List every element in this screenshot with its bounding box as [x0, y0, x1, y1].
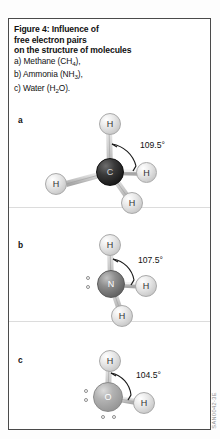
atom-label: H [141, 398, 148, 408]
water-electron-dot-4 [112, 415, 116, 419]
atom-label: H [107, 356, 114, 366]
methane-hydrogen-left: H [45, 173, 67, 195]
atom-label: H [119, 311, 126, 321]
watermark-text: SAN0042-3E [211, 392, 217, 429]
ammonia-nitrogen-atom: N [97, 270, 125, 298]
caption-line-2: free electron pairs [14, 35, 206, 46]
panel-letter-a: a [18, 115, 23, 125]
water-angle-label: 104.5° [136, 370, 161, 380]
ammonia-hydrogen-bottom: H [111, 305, 133, 327]
caption-item-b-suffix: ), [78, 69, 83, 79]
caption-item-a-prefix: a) Methane (CH [14, 56, 72, 66]
caption-item-a-suffix: ), [76, 56, 81, 66]
ammonia-hydrogen-top: H [99, 234, 121, 256]
ammonia-electron-dot-2 [86, 285, 90, 289]
water-electron-dot-2 [84, 398, 88, 402]
atom-label: N [108, 279, 115, 289]
panel-divider-a [9, 207, 210, 208]
atom-label: H [107, 240, 114, 250]
water-hydrogen-right: H [133, 392, 155, 414]
water-oxygen-atom: O [93, 382, 123, 412]
figure-caption: Figure 4: Influence of free electron pai… [14, 24, 206, 96]
caption-item-c: c) Water (H2O). [14, 83, 206, 97]
caption-item-c-prefix: c) Water (H [14, 83, 55, 93]
methane-carbon-atom: C [96, 158, 124, 186]
atom-label: H [143, 168, 150, 178]
water-hydrogen-top: H [99, 350, 121, 372]
ammonia-angle-label: 107.5° [138, 255, 163, 265]
caption-line-1: Figure 4: Influence of [14, 24, 206, 35]
atom-label: H [129, 198, 136, 208]
methane-hydrogen-top: H [99, 113, 121, 135]
methane-angle-label: 109.5° [140, 140, 165, 150]
atom-label: H [53, 179, 60, 189]
water-electron-dot-3 [101, 415, 105, 419]
atom-label: C [107, 167, 114, 177]
panel-letter-c: c [18, 355, 23, 365]
caption-line-3: on the structure of molecules [14, 45, 206, 56]
methane-hydrogen-right: H [136, 162, 157, 183]
panel-letter-b: b [18, 240, 23, 250]
caption-item-b-prefix: b) Ammonia (NH [14, 69, 75, 79]
ammonia-electron-dot-1 [86, 276, 90, 280]
panel-divider-b [9, 321, 210, 322]
ammonia-hydrogen-right: H [135, 275, 157, 297]
atom-label: O [104, 392, 111, 402]
atom-label: H [107, 119, 114, 129]
caption-item-b: b) Ammonia (NH3), [14, 69, 206, 83]
figure-page: Figure 4: Influence of free electron pai… [0, 0, 220, 439]
methane-hydrogen-bottom: H [121, 192, 143, 214]
caption-item-c-suffix: O). [59, 83, 70, 93]
caption-item-a: a) Methane (CH4), [14, 56, 206, 70]
atom-label: H [143, 281, 150, 291]
water-electron-dot-1 [84, 389, 88, 393]
